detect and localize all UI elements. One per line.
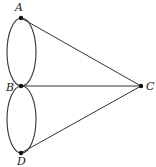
- edge-loop-a-b: [7, 18, 36, 86]
- label-d: D: [17, 156, 26, 167]
- edge-a-c: [21, 18, 141, 86]
- label-c: C: [146, 81, 154, 92]
- graph-svg: [0, 0, 156, 167]
- node-b: [19, 84, 23, 88]
- label-b: B: [6, 82, 14, 93]
- node-a: [19, 16, 23, 20]
- graph-diagram: A B C D: [0, 0, 156, 167]
- edge-d-c: [21, 86, 141, 153]
- node-c: [139, 84, 143, 88]
- label-a: A: [15, 2, 23, 13]
- edge-loop-b-d: [7, 86, 36, 153]
